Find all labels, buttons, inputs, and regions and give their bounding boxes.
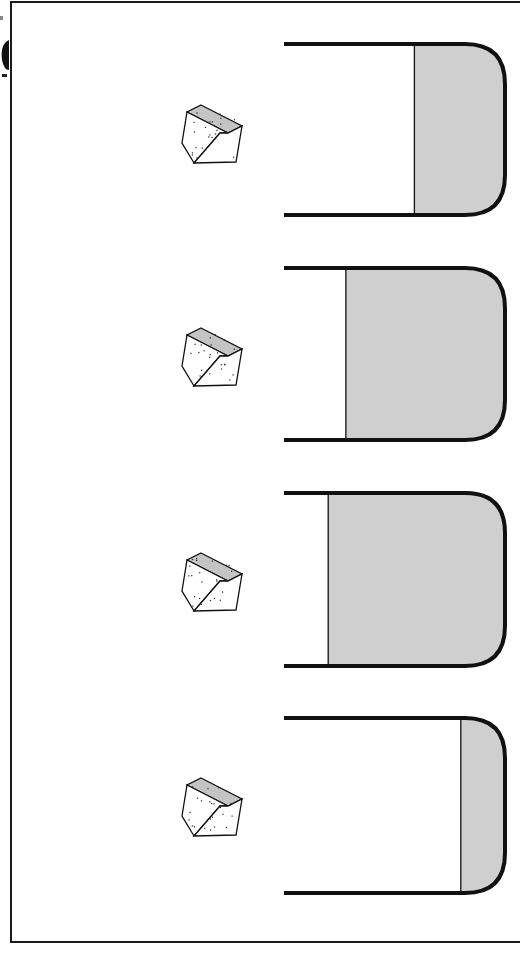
sugar-cube-icon bbox=[182, 328, 242, 386]
speckle bbox=[188, 819, 189, 820]
speckle bbox=[214, 827, 215, 828]
beaker bbox=[284, 268, 505, 440]
speckle bbox=[194, 826, 195, 827]
speckle bbox=[212, 121, 213, 122]
speckle bbox=[224, 339, 225, 340]
sugar-cube-icon bbox=[182, 105, 242, 163]
speckle bbox=[221, 368, 222, 369]
speckle bbox=[220, 124, 221, 125]
speckle bbox=[218, 787, 219, 788]
speckle bbox=[231, 803, 232, 804]
speckle bbox=[195, 147, 196, 148]
panel-2 bbox=[182, 268, 505, 440]
speckle bbox=[194, 122, 195, 123]
speckle bbox=[209, 357, 210, 358]
speckle bbox=[220, 114, 221, 115]
speckle bbox=[205, 127, 206, 128]
liquid bbox=[346, 268, 505, 440]
speckle bbox=[198, 352, 199, 353]
speckle bbox=[229, 565, 230, 566]
panel-4 bbox=[182, 718, 505, 893]
speckle bbox=[189, 812, 190, 813]
speckle bbox=[201, 581, 202, 582]
speckle bbox=[209, 134, 210, 135]
beaker bbox=[284, 44, 505, 215]
speckle bbox=[226, 565, 227, 566]
speckle bbox=[191, 575, 192, 576]
speckle bbox=[196, 560, 197, 561]
speckle bbox=[196, 558, 197, 559]
speckle bbox=[213, 803, 214, 804]
speckle bbox=[220, 600, 221, 601]
speckle bbox=[197, 112, 198, 113]
speckle bbox=[212, 137, 213, 138]
speckle bbox=[201, 370, 202, 371]
speckle bbox=[196, 157, 197, 158]
speckle bbox=[209, 801, 210, 802]
speckle bbox=[220, 807, 221, 808]
speckle bbox=[192, 155, 193, 156]
speckle bbox=[220, 118, 221, 119]
speckle bbox=[194, 131, 195, 132]
speckle bbox=[192, 606, 193, 607]
speckle bbox=[216, 581, 217, 582]
speckle bbox=[201, 344, 202, 345]
liquid bbox=[461, 718, 505, 893]
speckle bbox=[233, 157, 234, 158]
speckle bbox=[215, 133, 216, 134]
speckle bbox=[199, 598, 200, 599]
speckle bbox=[188, 575, 189, 576]
speckle bbox=[234, 119, 235, 120]
speckle bbox=[208, 136, 209, 137]
speckle bbox=[216, 579, 217, 580]
beaker bbox=[284, 718, 505, 893]
speckle bbox=[207, 788, 208, 789]
speckle bbox=[231, 571, 232, 572]
speckle bbox=[222, 814, 223, 815]
speckle bbox=[211, 344, 212, 345]
speckle bbox=[204, 350, 205, 351]
liquid bbox=[414, 44, 505, 215]
speckle bbox=[215, 334, 216, 335]
speckle bbox=[212, 817, 213, 818]
speckle bbox=[232, 816, 233, 817]
speckle bbox=[192, 786, 193, 787]
speckle bbox=[201, 800, 202, 801]
speckle bbox=[190, 353, 191, 354]
speckle bbox=[209, 121, 210, 122]
speckle bbox=[204, 828, 205, 829]
speckle bbox=[210, 354, 211, 355]
speckle bbox=[189, 565, 190, 566]
sugar-cube-icon bbox=[182, 778, 242, 836]
speckle bbox=[202, 148, 203, 149]
speckle bbox=[192, 825, 193, 826]
speckle bbox=[217, 352, 218, 353]
speckle bbox=[210, 337, 211, 338]
speckle bbox=[212, 561, 213, 562]
panel-1 bbox=[182, 44, 505, 215]
speckle bbox=[195, 344, 196, 345]
speckle bbox=[214, 126, 215, 127]
speckle bbox=[201, 604, 202, 605]
speckle bbox=[199, 572, 200, 573]
speckle bbox=[200, 375, 201, 376]
speckle bbox=[229, 380, 230, 381]
speckle bbox=[214, 598, 215, 599]
speckle bbox=[211, 803, 212, 804]
speckle bbox=[221, 364, 222, 365]
speckle bbox=[192, 152, 193, 153]
speckle bbox=[210, 600, 211, 601]
speckle bbox=[233, 374, 234, 375]
speckle bbox=[216, 130, 217, 131]
speckle bbox=[210, 819, 211, 820]
speckle bbox=[194, 596, 195, 597]
speckle bbox=[224, 364, 225, 365]
speckle bbox=[222, 592, 223, 593]
beaker bbox=[284, 493, 505, 666]
speckle bbox=[197, 798, 198, 799]
sugar-cube-icon bbox=[182, 553, 242, 611]
speckle bbox=[210, 829, 211, 830]
panel-3 bbox=[182, 493, 505, 666]
speckle bbox=[226, 827, 227, 828]
